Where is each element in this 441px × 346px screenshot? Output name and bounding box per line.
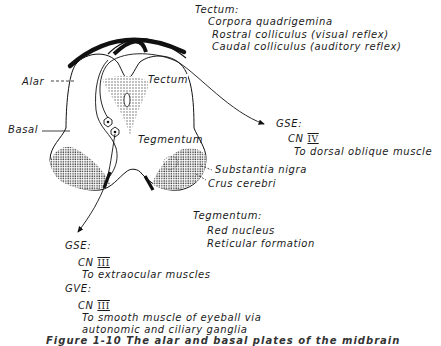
roman-numeral: III	[97, 301, 109, 311]
tectum-note-heading: Tectum:	[195, 4, 239, 16]
cerebral-aqueduct	[124, 93, 130, 107]
label-basal: Basal	[8, 124, 38, 136]
gve-heading: GVE:	[65, 283, 92, 295]
tectum-note-line3: Caudal colliculus (auditory reflex)	[212, 41, 401, 53]
label-alar: Alar	[22, 76, 44, 88]
label-substantia-nigra: Substantia nigra	[215, 164, 307, 176]
gse-right-nerve: CN IV	[288, 133, 319, 145]
gse-left-nerve: CN III	[78, 257, 110, 269]
label-crus-cerebri: Crus cerebri	[208, 178, 276, 190]
nerve-prefix: CN	[78, 257, 94, 268]
figure-caption: Figure 1-10 The alar and basal plates of…	[46, 335, 400, 346]
roman-numeral: IV	[307, 134, 318, 144]
gve-line1: To smooth muscle of eyeball via	[82, 312, 261, 324]
gse-right-heading: GSE:	[276, 118, 302, 130]
tegmentum-note-line2: Reticular formation	[207, 238, 315, 250]
nerve-prefix: CN	[78, 300, 94, 311]
gse-left-target: To extraocular muscles	[82, 269, 211, 281]
roman-numeral: III	[97, 258, 109, 268]
label-tegmentum: Tegmentum	[138, 134, 203, 146]
gse-right-target: To dorsal oblique muscle	[294, 146, 432, 158]
gse-left-heading: GSE:	[65, 240, 91, 252]
nerve-prefix: CN	[288, 133, 304, 144]
label-tectum: Tectum	[148, 74, 188, 86]
gve-nerve: CN III	[78, 300, 110, 312]
tectum-note-line2: Rostral colliculus (visual reflex)	[212, 29, 389, 41]
tegmentum-note-heading: Tegmentum:	[193, 210, 262, 222]
tegmentum-note-line1: Red nucleus	[207, 225, 275, 237]
tectum-note-line1: Corpora quadrigemina	[208, 16, 333, 28]
